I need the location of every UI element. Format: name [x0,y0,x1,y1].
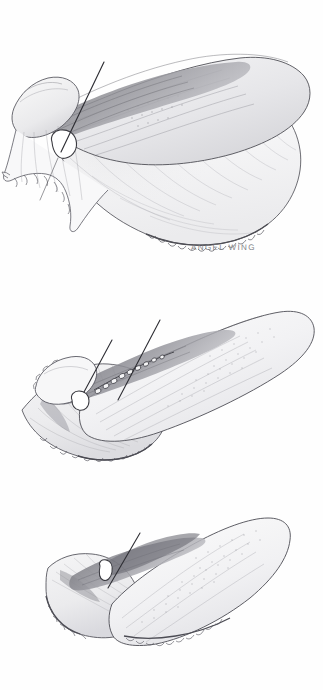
illustration-plate: ANGEL WING [0,0,323,690]
campeche-angel-wing-drawing [0,278,323,478]
caption-angel-wing: ANGEL WING [191,243,256,252]
angel-wing-accessory-plate [51,130,76,158]
figure-angel-wing: ANGEL WING [0,0,323,275]
figure-fallen-angel-wing: FALLEN ANGEL WING [0,488,323,688]
fallen-angel-wing-drawing [0,488,323,688]
angel-wing-drawing [0,0,323,275]
fallen-accessory-plate [99,560,112,581]
figure-campeche-angel-wing: CAMPECHE ANGEL WING [0,278,323,478]
fallen-upper-valve [109,518,290,646]
campeche-accessory-plate [71,391,89,410]
